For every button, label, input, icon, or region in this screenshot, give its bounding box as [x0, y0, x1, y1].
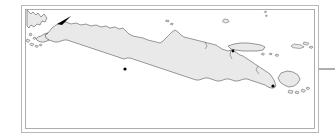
site-marker-east-java-coast[interactable]: [271, 84, 274, 87]
landmass-bawean: [222, 19, 229, 23]
landmass-bali: [278, 71, 300, 87]
map-canvas[interactable]: [0, 0, 335, 140]
site-marker-south-central-java[interactable]: [123, 67, 126, 70]
site-marker-north-east-java[interactable]: [232, 50, 235, 53]
landmass-kangean: [291, 42, 313, 49]
landmass-nusa-penida: [288, 87, 310, 94]
landmass-java: [44, 22, 276, 88]
landmass-karimunjawa: [166, 20, 174, 25]
landmass-thousand-islands: [265, 11, 268, 17]
landmass-east-java-islets: [261, 53, 278, 57]
map-figure: Map of Java Java, Indonesia: [0, 0, 335, 140]
map-landmasses: [26, 10, 313, 94]
landmass-sumatra-tip: [27, 10, 47, 28]
